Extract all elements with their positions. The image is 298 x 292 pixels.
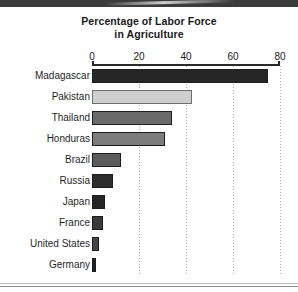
chart-title-line2: in Agriculture	[0, 28, 298, 41]
bar-row: Honduras	[0, 129, 298, 150]
bar-row: United States	[0, 234, 298, 255]
chart-title-line1: Percentage of Labor Force	[81, 15, 217, 27]
bar-row: Brazil	[0, 150, 298, 171]
bar	[92, 111, 172, 125]
bar	[92, 174, 113, 188]
category-label: Honduras	[47, 133, 90, 144]
bar	[92, 132, 165, 146]
bar-row: Russia	[0, 171, 298, 192]
bottom-rule-lower	[0, 286, 298, 287]
bar-row: Germany	[0, 255, 298, 276]
x-tick-label: 40	[180, 51, 191, 62]
bar	[92, 90, 192, 104]
top-scan-band	[0, 0, 298, 7]
bottom-rule-upper	[0, 283, 298, 284]
category-label: Brazil	[65, 154, 90, 165]
category-label: United States	[30, 238, 90, 249]
bar-row: Thailand	[0, 108, 298, 129]
bar	[92, 237, 99, 251]
bar-row: Madagascar	[0, 66, 298, 87]
x-tick-label: 20	[133, 51, 144, 62]
bar	[92, 153, 121, 167]
bar-row: Japan	[0, 192, 298, 213]
category-label: Russia	[59, 175, 90, 186]
category-label: France	[59, 217, 90, 228]
category-label: Thailand	[52, 112, 90, 123]
x-tick-label: 0	[89, 51, 95, 62]
bar	[92, 258, 96, 272]
bar	[92, 195, 105, 209]
x-tick-label: 80	[274, 51, 285, 62]
bar-row: France	[0, 213, 298, 234]
scan-streak	[105, 0, 235, 6]
category-label: Madagascar	[35, 70, 90, 81]
x-tick-label: 60	[227, 51, 238, 62]
chart-figure: Percentage of Labor Force in Agriculture…	[0, 0, 298, 292]
category-label: Germany	[49, 259, 90, 270]
category-label: Japan	[63, 196, 90, 207]
chart-title: Percentage of Labor Force in Agriculture	[0, 15, 298, 41]
bar	[92, 69, 268, 83]
bar	[92, 216, 103, 230]
category-label: Pakistan	[52, 91, 90, 102]
bar-row: Pakistan	[0, 87, 298, 108]
